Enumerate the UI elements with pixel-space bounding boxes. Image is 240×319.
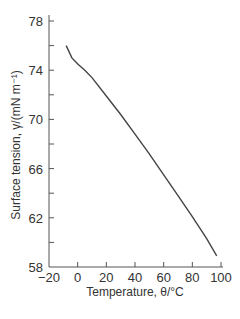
y-tick-label: 62 [29, 211, 43, 226]
y-axis-ticks: 586266707478 [29, 14, 54, 275]
x-tick-label: −20 [38, 270, 60, 285]
y-tick-label: 78 [29, 14, 43, 29]
y-tick-label: 74 [29, 63, 43, 78]
x-tick-label: 100 [210, 270, 232, 285]
x-axis-ticks: −20020406080100 [38, 262, 232, 285]
surface-tension-chart: 586266707478 −20020406080100 Temperature… [0, 0, 240, 319]
x-tick-label: 20 [99, 270, 113, 285]
x-axis-label: Temperature, θ/°C [86, 285, 184, 299]
x-tick-label: 40 [128, 270, 142, 285]
y-axis-label: Surface tension, γ/(mN m⁻¹) [9, 70, 23, 219]
y-tick-label: 66 [29, 162, 43, 177]
y-tick-label: 70 [29, 112, 43, 127]
axes [49, 15, 223, 267]
x-tick-label: 60 [156, 270, 170, 285]
x-tick-label: 0 [74, 270, 81, 285]
x-tick-label: 80 [185, 270, 199, 285]
data-line [66, 46, 217, 256]
